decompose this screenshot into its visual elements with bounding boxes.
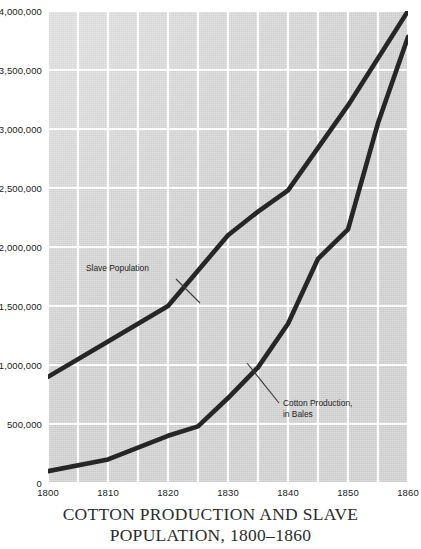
y-axis-tick-label: 500,000 [0, 419, 42, 430]
plot-area [48, 11, 408, 483]
slave-leader-line [176, 279, 200, 303]
annotation-cotton-label-line2: in Bales [283, 409, 313, 419]
cotton-leader-line [247, 363, 279, 403]
y-axis-tick-label: 2,500,000 [0, 183, 42, 194]
x-axis-tick-label: 1830 [217, 487, 239, 498]
y-axis-tick-label: 3,500,000 [0, 65, 42, 76]
chart-figure: Slave Population Cotton Production, in B… [0, 0, 421, 549]
x-axis-tick-label: 1860 [397, 487, 419, 498]
annotation-cotton-production: Cotton Production, in Bales [283, 398, 352, 420]
y-axis-tick-label: 1,500,000 [0, 301, 42, 312]
annotation-leader-lines [48, 11, 408, 483]
x-axis-tick-label: 1810 [97, 487, 119, 498]
caption-line-1: COTTON PRODUCTION AND SLAVE [0, 504, 421, 525]
annotation-slave-population: Slave Population [86, 263, 149, 274]
chart-caption: COTTON PRODUCTION AND SLAVE POPULATION, … [0, 504, 421, 546]
annotation-slave-label: Slave Population [86, 263, 149, 273]
y-axis-tick-label: 4,000,000 [0, 6, 42, 17]
x-axis-tick-label: 1840 [277, 487, 299, 498]
caption-line-2: POPULATION, 1800–1860 [0, 525, 421, 546]
x-axis-tick-label: 1820 [157, 487, 179, 498]
x-axis-tick-label: 1800 [37, 487, 59, 498]
y-axis-tick-label: 0 [0, 478, 42, 489]
x-axis-tick-label: 1850 [337, 487, 359, 498]
y-axis-tick-label: 3,000,000 [0, 124, 42, 135]
annotation-cotton-label-line1: Cotton Production, [283, 398, 352, 408]
y-axis-tick-label: 2,000,000 [0, 242, 42, 253]
y-axis-tick-label: 1,000,000 [0, 360, 42, 371]
